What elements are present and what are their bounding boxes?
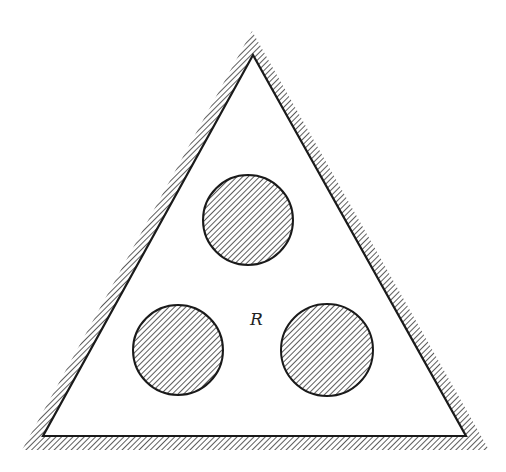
hole-right <box>281 304 373 396</box>
region-diagram: R <box>0 0 506 472</box>
region-label: R <box>249 309 263 329</box>
hole-top <box>203 175 293 265</box>
hole-left <box>133 305 223 395</box>
